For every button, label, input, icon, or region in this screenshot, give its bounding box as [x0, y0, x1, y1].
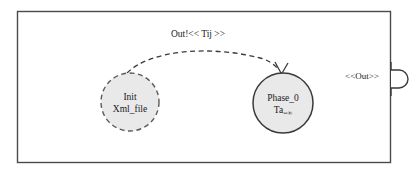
- out-port-semicircle-icon: [391, 70, 408, 88]
- statechart-svg: <<Out>> Out!<< Tij >> Init Xml_file Phas…: [0, 0, 417, 174]
- out-port-group[interactable]: [391, 62, 408, 96]
- diagram-canvas: <<Out>> Out!<< Tij >> Init Xml_file Phas…: [0, 0, 417, 174]
- phase-0-state-node[interactable]: Phase_0 Ta=∞: [253, 73, 313, 133]
- phase-0-state-circle: [253, 73, 313, 133]
- init-state-node[interactable]: Init Xml_file: [101, 73, 159, 131]
- out-port-label: <<Out>>: [345, 71, 379, 81]
- transition-label: Out!<< Tij >>: [171, 29, 225, 39]
- init-state-label-line1: Init: [123, 92, 137, 102]
- init-state-label-line2: Xml_file: [113, 104, 147, 114]
- ta-suffix: =∞: [283, 109, 292, 117]
- phase-0-state-label: Phase_0: [267, 93, 299, 103]
- init-state-circle: [101, 73, 159, 131]
